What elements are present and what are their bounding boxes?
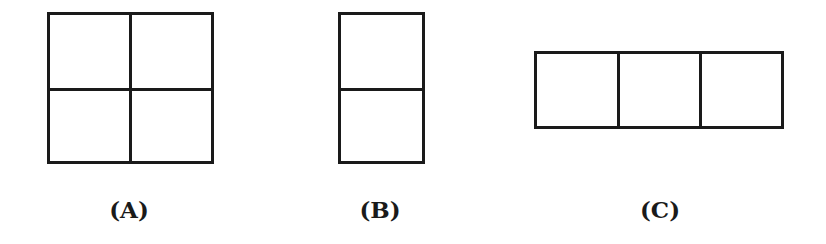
figure-b-grid xyxy=(338,12,425,164)
figure-c-grid xyxy=(534,51,784,129)
figure-c-vertical-divider-2 xyxy=(699,54,702,126)
figure-b-horizontal-divider xyxy=(341,88,422,91)
figure-c-vertical-divider-1 xyxy=(617,54,620,126)
figure-a-label: (A) xyxy=(89,196,169,224)
figure-a-grid xyxy=(47,12,214,164)
figure-c-label: (C) xyxy=(620,196,700,224)
figure-b-label: (B) xyxy=(340,196,420,224)
figure-a-horizontal-divider xyxy=(50,88,211,91)
